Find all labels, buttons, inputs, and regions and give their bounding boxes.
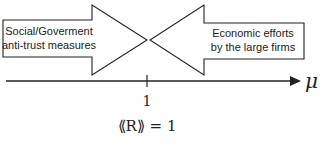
left-arrow: Social/Goverment anti-trust measures [2,5,147,75]
tick-value: 1 [143,93,152,109]
diagram-canvas: Social/Goverment anti-trust measures Eco… [0,0,327,144]
right-arrow-line2: by the large firms [211,41,296,53]
tick-annotation: ⟪R⟫ = 1 [118,117,177,135]
right-arrow: Economic efforts by the large firms [150,5,304,75]
mu-axis: μ 1 ⟪R⟫ = 1 [6,69,318,135]
right-arrow-line1: Economic efforts [212,27,294,39]
left-arrow-shape [150,5,304,75]
left-arrow-line2: anti-trust measures [2,39,97,51]
axis-arrowhead-icon [290,76,301,86]
left-arrow-line1: Social/Goverment [5,25,92,37]
axis-label: μ [305,69,318,93]
